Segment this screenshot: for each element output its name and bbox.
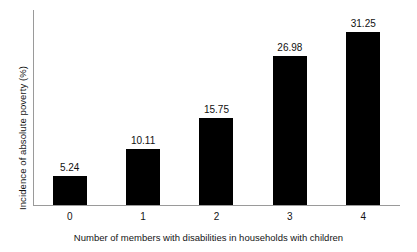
x-tick-label: 3 [253,209,326,225]
bar-value-label: 15.75 [204,104,229,116]
x-axis-tick-labels: 0 1 2 3 4 [33,209,400,225]
x-tick-label: 2 [180,209,253,225]
bar-rect[interactable] [346,32,380,205]
bar-value-label: 26.98 [277,42,302,54]
bar-group[interactable]: 10.11 [106,10,179,205]
y-axis-title: Incidence of absolute poverty (%) [16,10,30,210]
bar-group[interactable]: 15.75 [180,10,253,205]
bar-group[interactable]: 26.98 [253,10,326,205]
x-tick-label: 0 [33,209,106,225]
bar-group[interactable]: 5.24 [33,10,106,205]
bar-series: 5.24 10.11 15.75 26.98 31.25 [33,10,400,205]
bar-rect[interactable] [199,118,233,205]
x-tick-label: 4 [327,209,400,225]
bar-rect[interactable] [53,176,87,205]
plot-area: 5.24 10.11 15.75 26.98 31.25 [33,10,400,206]
bar-value-label: 31.25 [351,18,376,30]
bar-rect[interactable] [273,56,307,205]
bar-chart-figure: Incidence of absolute poverty (%) 5.24 1… [0,0,417,252]
bar-value-label: 5.24 [60,162,79,174]
x-axis-line [33,205,400,206]
bar-group[interactable]: 31.25 [327,10,400,205]
bar-rect[interactable] [126,149,160,205]
x-tick-label: 1 [106,209,179,225]
x-axis-title: Number of members with disabilities in h… [0,231,417,244]
bar-value-label: 10.11 [131,135,155,147]
